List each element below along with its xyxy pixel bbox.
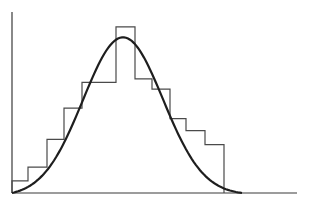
histogram-steps: [12, 27, 224, 193]
normal-curve: [12, 37, 242, 193]
histogram-chart: [0, 0, 309, 202]
